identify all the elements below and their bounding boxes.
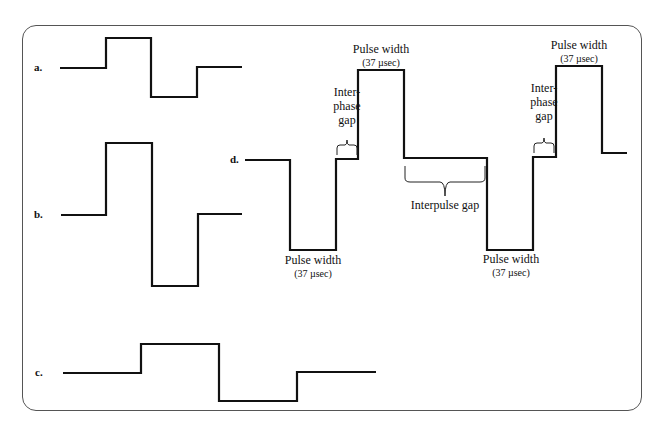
waveform-d <box>245 66 627 250</box>
panel-label-b: b. <box>34 208 43 220</box>
interphase-gap-label-1-line2: phase <box>333 99 360 113</box>
interpulse-brace <box>405 166 485 196</box>
waveform-diagram: a. b. c. d. Pulse width (37 µsec) Inter-… <box>0 0 661 426</box>
pulse-width-label-1: Pulse width <box>353 42 409 56</box>
panel-label-c: c. <box>35 366 43 378</box>
interphase-gap-label-2-line2: phase <box>530 95 557 109</box>
panel-label-d: d. <box>230 153 239 165</box>
waveform-b <box>61 143 242 286</box>
pulse-width-label-4: Pulse width <box>551 38 607 52</box>
interphase-gap-label-1-line3: gap <box>338 113 355 127</box>
pulse-width-label-2: Pulse width <box>285 253 341 267</box>
pulse-width-value-1: (37 µsec) <box>362 57 400 69</box>
pulse-width-label-3: Pulse width <box>483 252 539 266</box>
waveform-a <box>60 38 242 97</box>
interphase-brace-2 <box>534 138 554 153</box>
waveform-c <box>63 344 376 401</box>
pulse-width-value-4: (37 µsec) <box>560 53 598 65</box>
interpulse-gap-label: Interpulse gap <box>411 198 479 212</box>
interphase-brace-1 <box>337 140 357 155</box>
pulse-width-value-3: (37 µsec) <box>492 267 530 279</box>
pulse-width-value-2: (37 µsec) <box>294 268 332 280</box>
interphase-gap-label-2-line1: Inter- <box>531 81 557 95</box>
panel-label-a: a. <box>34 61 43 73</box>
interphase-gap-label-1-line1: Inter- <box>334 85 360 99</box>
interphase-gap-label-2-line3: gap <box>535 109 552 123</box>
